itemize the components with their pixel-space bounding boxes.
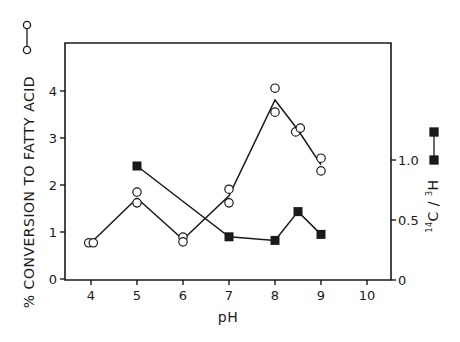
y-tick-label: 4 [49, 84, 57, 99]
series-lines [91, 100, 321, 243]
open-circle-marker [133, 199, 141, 207]
y-axis-left-ticks: 01234 [49, 84, 65, 287]
x-tick-label: 6 [179, 288, 187, 303]
y-tick-label: 2 [49, 178, 57, 193]
x-tick-label: 7 [225, 288, 233, 303]
open-circle-marker [89, 239, 97, 247]
y-axis-left-title: % CONVERSION TO FATTY ACID [21, 76, 37, 308]
y-axis-right-ticks: 00.51.0 [391, 153, 419, 288]
x-axis-ticks: 45678910 [87, 280, 375, 303]
x-tick-label: 8 [271, 288, 279, 303]
open-circle-marker [296, 124, 304, 132]
chart: 45678910 01234 00.51.0 pH % CONVERSION T… [0, 0, 460, 342]
x-tick-label: 9 [317, 288, 325, 303]
x-tick-label: 10 [359, 288, 376, 303]
open-circle-marker [225, 185, 233, 193]
open-circle-marker [317, 167, 325, 175]
open-circle-marker [179, 238, 187, 246]
filled-square-marker [294, 207, 303, 216]
x-axis-title: pH [218, 309, 238, 325]
y2-tick-label: 1.0 [398, 153, 419, 168]
x-tick-label: 5 [133, 288, 141, 303]
y2-tick-label: 0 [398, 273, 406, 288]
open-circle-marker [317, 154, 325, 162]
y-tick-label: 3 [49, 131, 57, 146]
open-circle-marker [271, 84, 279, 92]
filled-square-marker [225, 232, 234, 241]
y-axis-right-title-text: 14C / 3H [425, 179, 441, 232]
y-axis-right-title: 14C / 3H [425, 179, 441, 232]
legend-filled-square-icon [430, 128, 438, 164]
y-tick-label: 1 [49, 225, 57, 240]
filled-square-marker [133, 162, 142, 171]
y-tick-label: 0 [49, 272, 57, 287]
filled-square-marker [317, 230, 326, 239]
series-line [91, 100, 321, 243]
y-axis-left-title-text: % CONVERSION TO FATTY ACID [21, 76, 37, 308]
filled-square-marker [271, 236, 280, 245]
open-circle-marker [271, 108, 279, 116]
open-circle-marker [133, 188, 141, 196]
x-tick-label: 4 [87, 288, 95, 303]
plot-frame [65, 43, 391, 280]
open-circle-marker [225, 199, 233, 207]
y2-tick-label: 0.5 [398, 213, 419, 228]
legend-open-circle-icon [23, 21, 30, 53]
